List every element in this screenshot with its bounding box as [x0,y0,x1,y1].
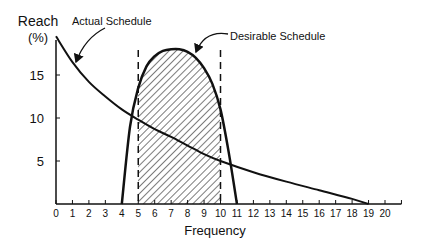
x-tick-label: 15 [297,208,309,219]
annotation-desirable-schedule: Desirable Schedule [230,30,325,42]
x-tick-label: 18 [347,208,359,219]
y-axis-label-line2: (%) [28,30,48,45]
desirable-schedule-arrow [196,33,228,52]
hatched-region [122,49,237,204]
x-tick-label: 6 [152,208,158,219]
x-tick-label: 19 [363,208,375,219]
x-tick-label: 20 [379,208,391,219]
actual-schedule-arrow [76,28,105,62]
y-axis-label-line1: Reach [18,13,58,29]
annotation-actual-schedule: Actual Schedule [72,15,152,27]
x-tick-label: 11 [232,208,243,219]
x-tick-label: 13 [264,208,276,219]
y-tick-label: 5 [37,154,44,169]
x-tick-label: 17 [330,208,342,219]
x-tick-label: 10 [215,208,227,219]
x-tick-label: 1 [70,208,76,219]
x-tick-label: 3 [103,208,109,219]
reach-frequency-chart: 0123456789101112131415161718192051015 Re… [0,0,429,250]
x-tick-label: 16 [314,208,326,219]
x-tick-label: 12 [248,208,260,219]
x-tick-label: 2 [86,208,92,219]
x-tick-label: 5 [135,208,141,219]
x-tick-label: 7 [168,208,174,219]
x-tick-label: 14 [281,208,293,219]
x-tick-label: 9 [201,208,207,219]
x-tick-label: 0 [53,208,59,219]
plot-area: 0123456789101112131415161718192051015 [30,28,402,219]
y-tick-label: 10 [30,111,44,126]
y-tick-label: 15 [30,68,44,83]
x-tick-label: 4 [119,208,125,219]
x-tick-label: 8 [185,208,191,219]
x-axis-label: Frequency [184,223,246,238]
